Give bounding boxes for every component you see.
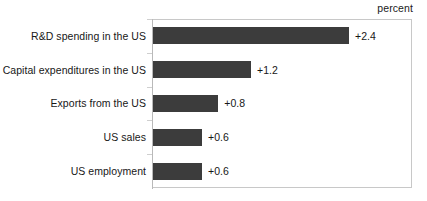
bar-row: Capital expenditures in the US +1.2 bbox=[0, 53, 427, 87]
bar-value-label: +1.2 bbox=[257, 64, 278, 76]
axis-tick bbox=[147, 87, 152, 88]
category-label: R&D spending in the US bbox=[0, 30, 146, 42]
bar-row: Exports from the US +0.8 bbox=[0, 87, 427, 121]
category-label: Exports from the US bbox=[0, 97, 146, 109]
bar bbox=[153, 163, 202, 180]
bar-value-label: +0.6 bbox=[208, 165, 229, 177]
category-label: Capital expenditures in the US bbox=[0, 64, 146, 76]
category-label: US employment bbox=[0, 165, 146, 177]
unit-caption: percent bbox=[377, 2, 413, 14]
bar-value-label: +2.4 bbox=[355, 30, 376, 42]
bar bbox=[153, 61, 251, 78]
bar-value-label: +0.8 bbox=[224, 97, 245, 109]
bar-row: R&D spending in the US +2.4 bbox=[0, 19, 427, 53]
bar bbox=[153, 27, 349, 44]
bar bbox=[153, 129, 202, 146]
axis-tick bbox=[147, 154, 152, 155]
bar-chart: percent R&D spending in the US +2.4 Capi… bbox=[0, 0, 427, 201]
bar bbox=[153, 95, 218, 112]
axis-tick bbox=[147, 19, 152, 20]
axis-tick bbox=[147, 53, 152, 54]
bar-value-label: +0.6 bbox=[208, 131, 229, 143]
bar-row: US sales +0.6 bbox=[0, 120, 427, 154]
bar-row: US employment +0.6 bbox=[0, 154, 427, 188]
axis-tick bbox=[147, 120, 152, 121]
bar-rows: R&D spending in the US +2.4 Capital expe… bbox=[0, 19, 427, 188]
category-label: US sales bbox=[0, 131, 146, 143]
